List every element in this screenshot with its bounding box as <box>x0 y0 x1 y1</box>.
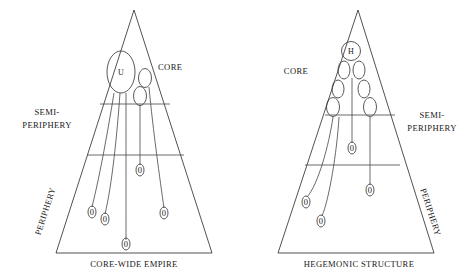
right-zero-label-2: 0 <box>319 216 324 226</box>
left-main-node-label: U <box>118 68 124 77</box>
right-core-oval-5 <box>327 98 340 117</box>
left-strand-5 <box>149 87 164 208</box>
left-diagram: U 0 0 0 0 0 CORE SEMI- P <box>22 10 212 269</box>
left-zero-label-4: 0 <box>138 165 143 175</box>
left-base-caption: CORE-WIDE EMPIRE <box>90 259 177 269</box>
left-zero-label-1: 0 <box>90 207 95 217</box>
right-core-oval-3 <box>332 80 344 98</box>
right-core-oval-1 <box>338 61 350 79</box>
left-core-label: CORE <box>158 62 182 72</box>
right-core-label: CORE <box>284 66 308 76</box>
right-strand-1 <box>307 117 333 197</box>
left-zero-label-5: 0 <box>162 208 167 218</box>
left-semiperiphery-label-line1: SEMI- <box>34 107 59 117</box>
right-semiperiphery-label-line1: SEMI- <box>419 110 444 120</box>
right-core-oval-6 <box>364 98 377 117</box>
diagram-canvas: U 0 0 0 0 0 CORE SEMI- P <box>0 0 466 278</box>
right-zero-label-1: 0 <box>304 197 309 207</box>
left-periphery-label: PERIPHERY <box>33 186 58 236</box>
right-main-node-label: H <box>348 47 354 56</box>
right-zero-label-4: 0 <box>368 185 373 195</box>
left-zero-label-3: 0 <box>124 239 129 249</box>
left-triangle-outline <box>56 10 212 253</box>
left-core-oval-1 <box>139 69 152 88</box>
right-semiperiphery-label-line2: PERIPHERY <box>407 123 456 133</box>
figure-container: U 0 0 0 0 0 CORE SEMI- P <box>0 0 466 278</box>
left-strand-1 <box>92 93 114 207</box>
right-core-oval-2 <box>353 61 365 79</box>
right-base-caption: HEGEMONIC STRUCTURE <box>304 259 415 269</box>
right-core-oval-4 <box>358 80 370 98</box>
left-semiperiphery-label-line2: PERIPHERY <box>22 120 71 130</box>
left-zero-label-2: 0 <box>103 214 108 224</box>
left-strand-2 <box>105 93 120 214</box>
left-core-oval-2 <box>134 87 147 106</box>
right-zero-label-3: 0 <box>350 143 355 153</box>
right-diagram: H 0 0 0 0 CORE SEMI- <box>278 10 457 269</box>
right-periphery-label: PERIPHERY <box>418 187 443 237</box>
